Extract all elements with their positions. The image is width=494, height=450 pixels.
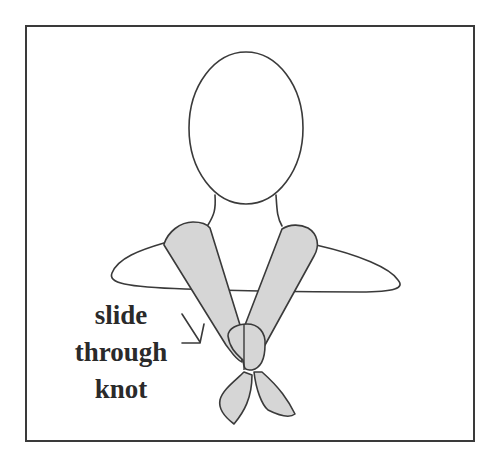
label-line-1: slide xyxy=(60,297,182,334)
knot-label: slide through knot xyxy=(60,297,182,408)
arrow-pointer-icon xyxy=(182,314,204,343)
label-line-2: through xyxy=(60,334,182,371)
label-line-3: knot xyxy=(60,371,182,408)
shoulders xyxy=(111,243,400,292)
scarf-tail-left xyxy=(220,372,252,424)
head xyxy=(189,52,303,204)
scarf-tail-right xyxy=(254,372,295,416)
knot xyxy=(228,324,265,370)
